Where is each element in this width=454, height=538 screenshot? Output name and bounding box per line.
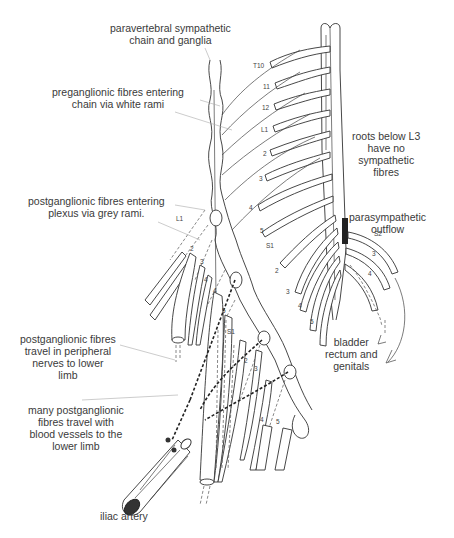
label-line: chain and ganglia bbox=[110, 34, 231, 46]
label-line: outflow bbox=[349, 223, 426, 235]
iliac-artery-drawing bbox=[121, 437, 193, 518]
label-roots-below-l3: roots below L3 have no sympathetic fibre… bbox=[352, 130, 420, 178]
label-line: nerves to lower bbox=[20, 357, 116, 369]
plexus-label-l5: 5 bbox=[222, 307, 226, 314]
plexus-label-l2: 2 bbox=[190, 245, 194, 252]
label-paravertebral-chain: paravertebral sympathetic chain and gang… bbox=[110, 22, 231, 46]
label-line: fibres bbox=[352, 166, 420, 178]
label-line: plexus via grey rami. bbox=[28, 207, 165, 219]
label-parasympathetic-outflow: parasympathetic outflow bbox=[349, 211, 426, 235]
label-line: preganglionic fibres entering bbox=[52, 86, 184, 98]
root-label-s4: 4 bbox=[298, 302, 302, 309]
label-line: many postganglionic bbox=[28, 404, 124, 416]
spinal-roots bbox=[258, 46, 341, 346]
bladder-arrow bbox=[388, 278, 405, 362]
label-bladder-rectum-genitals: bladder rectum and genitals bbox=[325, 336, 378, 372]
plexus-label-s5: 5 bbox=[276, 418, 280, 425]
sympathetic-nervous-system-diagram bbox=[0, 0, 454, 538]
label-line: lower limb bbox=[28, 440, 124, 452]
label-line: chain via white rami bbox=[52, 98, 184, 110]
label-line: limb bbox=[20, 369, 116, 381]
root-label-t10: T10 bbox=[253, 62, 264, 69]
plexus-label-l4b: 4 bbox=[213, 287, 217, 294]
label-line: iliac artery bbox=[100, 510, 148, 522]
plexus-label-l1: L1 bbox=[176, 215, 183, 222]
label-line: roots below L3 bbox=[352, 130, 420, 142]
label-line: have no bbox=[352, 142, 420, 154]
label-line: paravertebral sympathetic bbox=[110, 22, 231, 34]
label-line: postganglionic fibres bbox=[20, 333, 116, 345]
root-label-l3: 3 bbox=[259, 175, 263, 182]
root-label-l2: 2 bbox=[263, 150, 267, 157]
label-line: travel in peripheral bbox=[20, 345, 116, 357]
plexus-label-s2: 2 bbox=[244, 357, 248, 364]
label-line: blood vessels to the bbox=[28, 428, 124, 440]
label-line: genitals bbox=[325, 360, 378, 372]
root-label-t12: 12 bbox=[262, 104, 269, 111]
label-line: sympathetic bbox=[352, 154, 420, 166]
root-label-l5: 5 bbox=[260, 227, 264, 234]
label-line: fibres travel with bbox=[28, 416, 124, 428]
label-line: bladder bbox=[325, 336, 378, 348]
root-label-s5: 5 bbox=[310, 318, 314, 325]
label-line: postganglionic fibres entering bbox=[28, 195, 165, 207]
sacral-right-label-s3: 3 bbox=[372, 250, 376, 257]
root-label-s2: 2 bbox=[275, 267, 279, 274]
plexus-label-s4: 4 bbox=[260, 416, 264, 423]
label-postganglionic-grey-rami: postganglionic fibres entering plexus vi… bbox=[28, 195, 165, 219]
root-label-s1: S1 bbox=[266, 242, 274, 249]
label-iliac-artery: iliac artery bbox=[100, 510, 148, 522]
parasympathetic-outflow-marker bbox=[342, 218, 348, 244]
root-label-t11: 11 bbox=[263, 83, 270, 90]
label-preganglionic-white-rami: preganglionic fibres entering chain via … bbox=[52, 86, 184, 110]
root-label-l4: 4 bbox=[249, 204, 253, 211]
root-label-l1: L1 bbox=[261, 126, 268, 133]
label-line: rectum and bbox=[325, 348, 378, 360]
plexus-label-s3: 3 bbox=[254, 365, 258, 372]
label-postganglionic-peripheral: postganglionic fibres travel in peripher… bbox=[20, 333, 116, 381]
root-label-s3: 3 bbox=[286, 288, 290, 295]
sacral-right-label-s2: S2 bbox=[374, 230, 382, 237]
sacral-roots-right bbox=[345, 232, 398, 335]
sacral-right-label-s4: 4 bbox=[368, 270, 372, 277]
plexus-label-s1: S1 bbox=[227, 328, 235, 335]
label-line: parasympathetic bbox=[349, 211, 426, 223]
label-postganglionic-blood-vessels: many postganglionic fibres travel with b… bbox=[28, 404, 124, 452]
plexus-label-l4a: 4 bbox=[204, 276, 208, 283]
plexus-label-l3: 3 bbox=[200, 258, 204, 265]
